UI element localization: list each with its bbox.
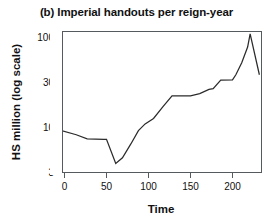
y-axis-title: HS million (log scale) xyxy=(10,44,22,160)
plot-frame xyxy=(63,32,262,173)
x-tick-label-0: 0 xyxy=(62,181,68,192)
right-margin-mask xyxy=(263,30,274,175)
x-tick-label-200: 200 xyxy=(224,181,241,192)
x-axis-ticks xyxy=(65,173,233,178)
plot-frame-top xyxy=(63,32,262,173)
x-axis-title: Time xyxy=(148,203,175,215)
left-margin-mask xyxy=(50,30,63,175)
chart-figure: (b) Imperial handouts per reign-year 100… xyxy=(0,0,273,220)
x-tick-label-150: 150 xyxy=(182,181,199,192)
x-tick-label-50: 50 xyxy=(101,181,113,192)
data-series-line xyxy=(54,34,259,164)
x-tick-label-100: 100 xyxy=(140,181,157,192)
line-chart-plot: 100 30 10 3 0 50 100 150 200 Time HS mil… xyxy=(0,0,273,220)
